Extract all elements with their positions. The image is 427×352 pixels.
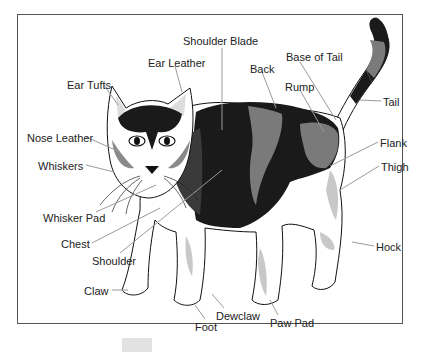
label-shoulder: Shoulder (92, 256, 136, 267)
label-nose-leather: Nose Leather (27, 133, 93, 144)
label-foot: Foot (195, 322, 217, 333)
tail-shape (336, 18, 389, 130)
page-tab-fragment (122, 338, 152, 352)
label-base-of-tail: Base of Tail (286, 52, 343, 63)
label-ear-tufts: Ear Tufts (67, 80, 111, 91)
label-hock: Hock (376, 242, 401, 253)
label-paw-pad: Paw Pad (270, 318, 314, 329)
cat-illustration (0, 0, 427, 352)
label-whiskers: Whiskers (38, 161, 83, 172)
label-thigh: Thigh (381, 162, 409, 173)
label-whisker-pad: Whisker Pad (43, 213, 105, 224)
label-flank: Flank (380, 138, 407, 149)
label-tail: Tail (383, 97, 400, 108)
label-claw: Claw (84, 286, 108, 297)
label-back: Back (250, 64, 274, 75)
label-ear-leather: Ear Leather (148, 58, 205, 69)
label-chest: Chest (61, 239, 90, 250)
label-shoulder-blade: Shoulder Blade (183, 36, 258, 47)
label-dewclaw: Dewclaw (216, 311, 260, 322)
label-rump: Rump (285, 82, 314, 93)
